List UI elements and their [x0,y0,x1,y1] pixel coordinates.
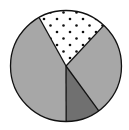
pie-chart [0,0,129,130]
